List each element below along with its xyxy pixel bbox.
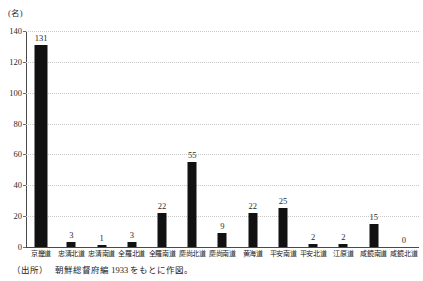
bar[interactable] [278,208,287,247]
source-text: 朝鮮総督府編 1933 をもとに作図。 [55,265,193,275]
bar[interactable] [248,213,257,247]
bar-slot[interactable]: 2 [328,31,358,247]
bar[interactable] [218,233,227,247]
bar-value-label: 3 [69,231,73,240]
bar-slot[interactable]: 131 [26,31,56,247]
axis-baseline [26,247,419,248]
plot-area: 020406080100120140 13131322559222522150 [26,31,419,247]
bars-group: 13131322559222522150 [26,31,419,247]
x-axis-category-label: 忠清北道 [58,249,85,260]
y-tick-label: 140 [9,27,22,36]
bar-value-label: 0 [402,236,406,245]
y-tick-label: 0 [18,243,22,252]
bar-value-label: 22 [248,202,257,211]
bar-value-label: 55 [188,151,197,160]
bar[interactable] [127,242,136,247]
source-prefix: （出所） [12,265,48,275]
x-axis-category-label: 黄海道 [243,249,263,260]
bar-slot[interactable]: 25 [268,31,298,247]
x-axis-category-label: 忠清南道 [88,249,115,260]
x-axis-category-label: 全羅北道 [118,249,145,260]
bar-slot[interactable]: 3 [56,31,86,247]
bar[interactable] [188,162,197,247]
y-axis-unit-label: (名) [8,8,23,18]
bar-slot[interactable]: 1 [86,31,116,247]
x-axis-category-label: 慶尚南道 [209,249,236,260]
bar-slot[interactable]: 55 [177,31,207,247]
x-axis-category-label: 全羅南道 [149,249,176,260]
bar[interactable] [309,244,318,247]
y-tick-mark [23,247,26,248]
y-tick-label: 80 [14,119,23,128]
y-tick-label: 20 [14,212,23,221]
bar-slot[interactable]: 3 [117,31,147,247]
y-tick-label: 100 [9,88,22,97]
bar-slot[interactable]: 2 [298,31,328,247]
bar[interactable] [67,242,76,247]
x-axis-category-label: 平安北道 [300,249,327,260]
source-note: （出所）朝鮮総督府編 1933 をもとに作図。 [12,265,193,276]
bar-slot[interactable]: 22 [238,31,268,247]
x-axis-labels-group: 京畿道忠清北道忠清南道全羅北道全羅南道慶尚北道慶尚南道黄海道平安南道平安北道江原… [26,249,419,263]
x-axis-category-label: 咸鏡北道 [390,249,417,260]
bar[interactable] [369,224,378,247]
bar-value-label: 1 [99,234,103,243]
bar-value-label: 9 [220,222,224,231]
bar-slot[interactable]: 9 [207,31,237,247]
bar-value-label: 22 [158,202,167,211]
bar-value-label: 2 [311,233,315,242]
bar-value-label: 2 [341,233,345,242]
bar[interactable] [35,45,48,247]
y-tick-label: 40 [14,181,23,190]
bar-value-label: 25 [279,197,288,206]
bar-slot[interactable]: 0 [389,31,419,247]
bar[interactable] [97,245,106,247]
bar-slot[interactable]: 22 [147,31,177,247]
y-tick-label: 60 [14,150,23,159]
x-axis-category-label: 慶尚北道 [179,249,206,260]
bar-chart-figure: (名) 020406080100120140 13131322559222522… [0,0,423,281]
bar-value-label: 131 [35,34,48,43]
bar-slot[interactable]: 15 [359,31,389,247]
x-axis-category-label: 平安南道 [270,249,297,260]
bar-value-label: 3 [130,231,134,240]
bar[interactable] [158,213,167,247]
x-axis-category-label: 咸鏡南道 [360,249,387,260]
x-axis-category-label: 江原道 [333,249,353,260]
bar[interactable] [339,244,348,247]
bar-value-label: 15 [369,213,378,222]
x-axis-category-label: 京畿道 [31,249,51,260]
y-tick-label: 120 [9,57,22,66]
